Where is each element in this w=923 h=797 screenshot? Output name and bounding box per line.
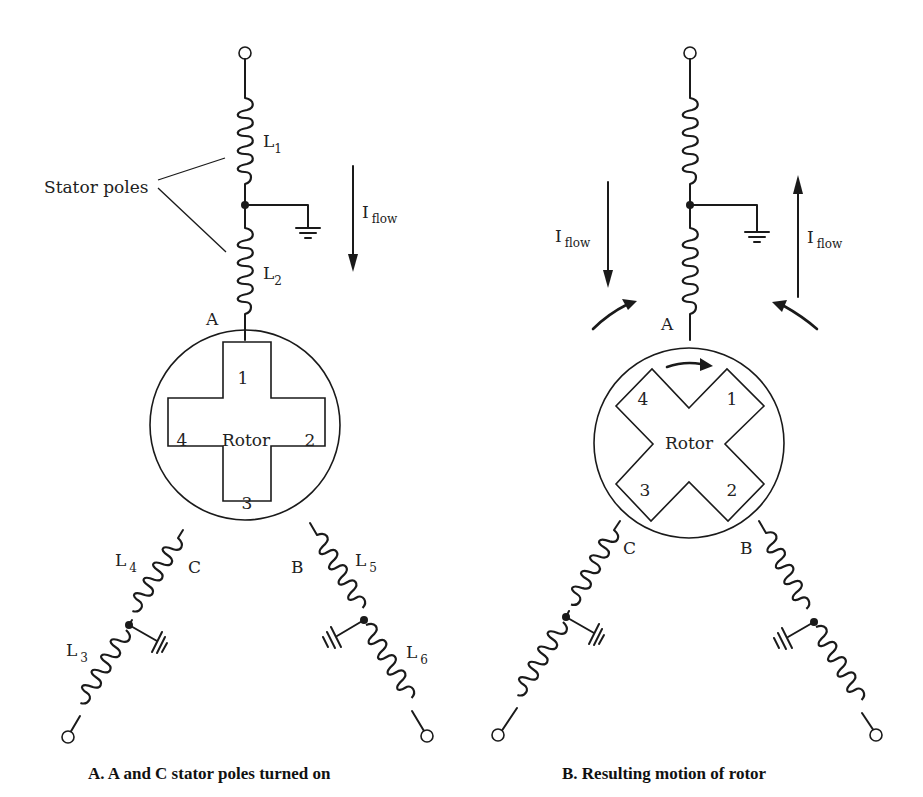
caption-b: B. Resulting motion of rotor bbox=[562, 764, 767, 783]
terminal-c bbox=[62, 731, 74, 743]
ground-icon bbox=[774, 628, 792, 649]
inductor-l1 bbox=[238, 98, 253, 184]
ground-icon bbox=[152, 632, 167, 653]
inductor-l6 bbox=[810, 623, 868, 704]
terminal-b bbox=[421, 730, 433, 742]
pole-label-c: C bbox=[188, 557, 201, 577]
label-l4: L4 bbox=[115, 550, 137, 575]
pole-label-c: C bbox=[623, 538, 636, 558]
label-l5: L5 bbox=[355, 550, 377, 575]
terminal-b bbox=[870, 729, 882, 741]
stator-housing bbox=[150, 330, 340, 520]
current-flow-arrow-down bbox=[348, 166, 358, 272]
rotor-plus bbox=[168, 342, 325, 501]
inductor-l5 bbox=[311, 531, 369, 612]
stator-poles-label: Stator poles bbox=[44, 177, 149, 197]
pole-label-b: B bbox=[291, 557, 304, 577]
label-l6: L6 bbox=[406, 642, 428, 667]
terminal-c bbox=[492, 729, 504, 741]
pole-label-a: A bbox=[660, 314, 674, 334]
inductor-l1 bbox=[683, 98, 698, 184]
rotor-pole-1: 1 bbox=[727, 389, 738, 409]
current-flow-label: Iflow bbox=[362, 202, 398, 226]
stepper-motor-diagram: L1 L2 Stator poles Iflow A 1 2 3 4 Rotor bbox=[0, 0, 923, 797]
pole-label-b: B bbox=[740, 538, 753, 558]
ground-icon bbox=[745, 232, 769, 242]
current-flow-arrow-up bbox=[793, 175, 803, 297]
pole-label-a: A bbox=[205, 309, 219, 329]
inductor-l3 bbox=[511, 618, 569, 699]
branch-b bbox=[310, 523, 433, 742]
inductor-l2 bbox=[683, 228, 698, 314]
rotor-pole-3: 3 bbox=[242, 493, 253, 513]
label-l2: L2 bbox=[263, 263, 282, 288]
inductor-l5 bbox=[760, 529, 814, 612]
inductor-l3 bbox=[74, 626, 132, 707]
caption-a: A. A and C stator poles turned on bbox=[88, 764, 331, 783]
branch-b bbox=[759, 521, 882, 741]
ground-icon bbox=[296, 228, 320, 238]
rotor-label: Rotor bbox=[665, 433, 714, 453]
ground-icon bbox=[589, 624, 604, 645]
rotation-arrow-clockwise bbox=[667, 358, 713, 371]
motion-arrow-left bbox=[593, 299, 637, 329]
rotor-pole-4: 4 bbox=[177, 430, 188, 450]
rotor-pole-3: 3 bbox=[640, 480, 651, 500]
inductor-l2 bbox=[238, 228, 253, 314]
motion-arrow-right bbox=[772, 300, 817, 329]
rotor-pole-2: 2 bbox=[305, 430, 316, 450]
current-flow-label-left: Iflow bbox=[555, 226, 591, 250]
current-flow-label-right: Iflow bbox=[807, 227, 843, 251]
inductor-l4 bbox=[565, 526, 621, 608]
current-flow-arrow-down bbox=[603, 182, 613, 288]
rotor-pole-4: 4 bbox=[638, 389, 649, 409]
branch-c bbox=[492, 521, 621, 741]
rotor-pole-1: 1 bbox=[238, 368, 249, 388]
terminal-top bbox=[239, 47, 251, 59]
panel-b: Iflow Iflow A 1 2 3 4 Rotor bbox=[492, 47, 882, 783]
panel-a: L1 L2 Stator poles Iflow A 1 2 3 4 Rotor bbox=[44, 47, 433, 783]
label-l3: L3 bbox=[66, 640, 88, 665]
rotor-pole-2: 2 bbox=[727, 480, 738, 500]
label-l1: L1 bbox=[263, 131, 282, 156]
terminal-top bbox=[684, 47, 696, 59]
ground-icon bbox=[323, 627, 341, 648]
rotor-label: Rotor bbox=[222, 430, 271, 450]
